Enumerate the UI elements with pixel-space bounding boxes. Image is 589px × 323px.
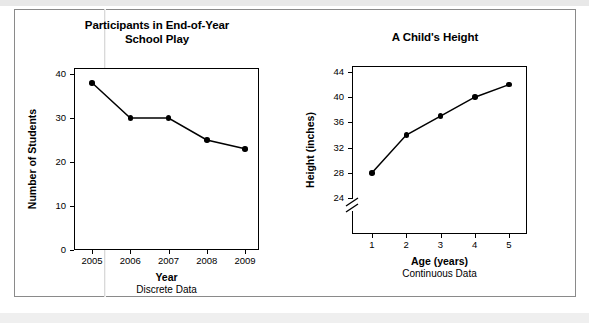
chart-left-title-line2: School Play [22, 32, 292, 46]
chart-a-childs-height: A Child's Height 12345242832364044Age (y… [300, 30, 570, 288]
participants-play-xaxis-subtitle: Discrete Data [74, 284, 259, 295]
sheet-border-top [14, 9, 576, 10]
participants-play-data-point [204, 137, 210, 143]
page-edge-bottom [0, 313, 589, 323]
chart-left-title-line1: Participants in End-of-Year [22, 18, 292, 32]
child-height-data-point [472, 94, 478, 100]
sheet-border-left [14, 9, 15, 297]
chart-right-title-line1: A Child's Height [300, 30, 570, 44]
chart-left-title: Participants in End-of-Year School Play [22, 18, 292, 46]
child-height-xaxis-title: Age (years) [352, 255, 527, 267]
child-height-data-point [438, 113, 444, 119]
child-height-data-point [404, 132, 410, 138]
chart-participants-in-school-play: Participants in End-of-Year School Play … [22, 18, 292, 288]
child-height-data-point [506, 82, 512, 88]
child-height-xaxis-subtitle: Continuous Data [352, 268, 527, 279]
chart-right-title: A Child's Height [300, 30, 570, 44]
participants-play-data-point [89, 80, 95, 86]
participants-play-data-point [128, 115, 134, 121]
worksheet-page: Participants in End-of-Year School Play … [0, 0, 589, 323]
participants-play-xaxis-title: Year [74, 271, 259, 283]
child-height-yaxis-title: Height (inches) [304, 66, 316, 234]
participants-play-yaxis-title: Number of Students [26, 68, 38, 250]
participants-play-data-point [166, 115, 172, 121]
child-height-data-point [369, 170, 375, 176]
page-edge-top [0, 0, 589, 6]
participants-play-data-point [242, 146, 248, 152]
